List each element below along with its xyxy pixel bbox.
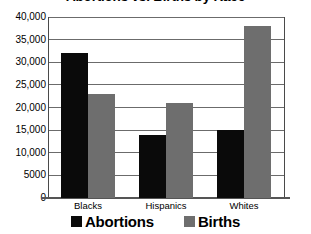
bar-hispanics-abortions (139, 135, 166, 198)
y-axis-tick-label: 5000 (0, 170, 46, 180)
legend-item-births: Births (184, 214, 240, 229)
y-axis-tick-label: 10,000 (0, 148, 46, 158)
bars-layer (49, 17, 283, 198)
x-axis-tick-label: Hispanics (127, 200, 205, 212)
y-axis-tick-label: 30,000 (0, 57, 46, 67)
legend-swatch-icon (71, 216, 82, 227)
legend-label: Abortions (85, 214, 154, 229)
y-axis-tick-label: 0 (0, 193, 46, 203)
bar-chart: Abortions vs. Births by Race 0500010,000… (0, 0, 311, 234)
bar-whites-abortions (217, 130, 244, 198)
bar-whites-births (244, 26, 271, 198)
y-axis-tick-label: 25,000 (0, 80, 46, 90)
x-axis-tick-label: Blacks (49, 200, 127, 212)
y-axis-tick-label: 20,000 (0, 103, 46, 113)
bar-hispanics-births (166, 103, 193, 198)
bar-group (127, 17, 205, 198)
y-axis-tick-label: 15,000 (0, 125, 46, 135)
x-axis-labels: BlacksHispanicsWhites (49, 200, 283, 214)
bar-group (49, 17, 127, 198)
bar-blacks-births (88, 94, 115, 198)
chart-legend: AbortionsBirths (0, 214, 311, 229)
y-axis-tick-label: 35,000 (0, 35, 46, 45)
legend-swatch-icon (184, 216, 195, 227)
bar-blacks-abortions (61, 53, 88, 198)
y-axis-labels: 0500010,00015,00020,00025,00030,00035,00… (0, 17, 46, 198)
bar-group (205, 17, 283, 198)
x-axis-tick-label: Whites (205, 200, 283, 212)
chart-title: Abortions vs. Births by Race (0, 0, 311, 4)
y-axis-tick-label: 40,000 (0, 12, 46, 22)
legend-item-abortions: Abortions (71, 214, 154, 229)
legend-label: Births (198, 214, 240, 229)
